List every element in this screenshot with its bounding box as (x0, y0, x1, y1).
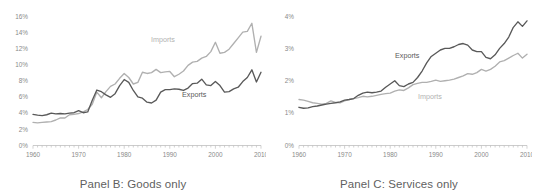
xtick-label: 2000 (474, 151, 489, 158)
panel-b-caption: Panel B: Goods only (0, 178, 266, 190)
ytick-label: 4% (285, 13, 295, 20)
ytick-label: 14% (15, 29, 28, 36)
xtick-label: 1990 (163, 151, 178, 158)
ytick-label: 2% (19, 126, 29, 133)
ytick-label: 2% (285, 77, 295, 84)
panel-c-exports-line (299, 21, 527, 108)
panel-b-imports-label: Imports (151, 35, 175, 44)
panel-b-x-ticks (33, 146, 261, 149)
panel-c-xtick-labels: 1960 1970 1980 1990 2000 2010 (292, 151, 532, 158)
panel-c-exports-label: Exports (395, 51, 420, 60)
panel-b-imports-line (33, 23, 261, 123)
xtick-label: 1960 (292, 151, 307, 158)
ytick-label: 6% (19, 93, 29, 100)
xtick-label: 1980 (383, 151, 398, 158)
ytick-label: 12% (15, 45, 28, 52)
panel-b-exports-line (33, 70, 261, 116)
xtick-label: 1980 (117, 151, 132, 158)
xtick-label: 1970 (337, 151, 352, 158)
xtick-label: 1970 (71, 151, 86, 158)
xtick-label: 1960 (26, 151, 41, 158)
trade-share-figure: 16% 14% 12% 10% 8% 6% 4% 2% 0% 1960 1970… (0, 0, 533, 192)
xtick-label: 1990 (429, 151, 444, 158)
ytick-label: 10% (15, 61, 28, 68)
panel-c-caption: Panel C: Services only (266, 178, 532, 190)
ytick-label: 8% (19, 77, 29, 84)
ytick-label: 0% (19, 142, 29, 149)
panel-b-svg: 16% 14% 12% 10% 8% 6% 4% 2% 0% 1960 1970… (0, 0, 266, 165)
ytick-label: 4% (19, 109, 29, 116)
ytick-label: 3% (285, 45, 295, 52)
panel-c-x-ticks (299, 146, 527, 149)
xtick-label: 2010 (254, 151, 266, 158)
panel-b-ytick-labels: 16% 14% 12% 10% 8% 6% 4% 2% 0% (15, 13, 28, 149)
panel-b-exports-label: Exports (182, 90, 207, 99)
ytick-label: 0% (285, 142, 295, 149)
ytick-label: 1% (285, 109, 295, 116)
panel-c-plot: 4% 3% 2% 1% 0% 1960 1970 1980 1990 2000 … (266, 0, 532, 165)
xtick-label: 2010 (520, 151, 532, 158)
panel-c-imports-label: Imports (418, 92, 442, 101)
panel-c-imports-line (299, 53, 527, 104)
panel-c-svg: 4% 3% 2% 1% 0% 1960 1970 1980 1990 2000 … (266, 0, 532, 165)
panel-b-xtick-labels: 1960 1970 1980 1990 2000 2010 (26, 151, 266, 158)
ytick-label: 16% (15, 13, 28, 20)
panel-b-goods-only: 16% 14% 12% 10% 8% 6% 4% 2% 0% 1960 1970… (0, 0, 266, 192)
panel-c-ytick-labels: 4% 3% 2% 1% 0% (285, 13, 295, 149)
xtick-label: 2000 (208, 151, 223, 158)
panel-b-plot: 16% 14% 12% 10% 8% 6% 4% 2% 0% 1960 1970… (0, 0, 266, 165)
panel-c-services-only: 4% 3% 2% 1% 0% 1960 1970 1980 1990 2000 … (266, 0, 532, 192)
